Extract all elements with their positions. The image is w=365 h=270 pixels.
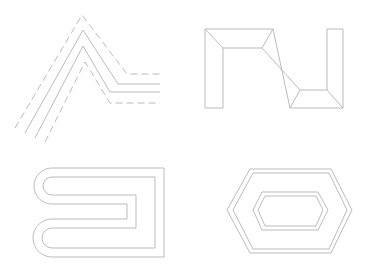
diagram-canvas (0, 0, 365, 270)
serpentine-outer-outline (33, 168, 164, 257)
band-outline (205, 29, 343, 108)
nested-hexagons-panel (227, 169, 352, 253)
inner-solid-line (35, 46, 160, 138)
bevel-line (327, 90, 343, 108)
bevel-line (205, 29, 223, 48)
serpentine-panel (33, 168, 164, 257)
bevel-line (262, 29, 273, 48)
beveled-step-panel (205, 29, 343, 108)
hexagon-inner-2 (258, 196, 323, 226)
bevel-line (290, 90, 300, 108)
hexagon-outer-2 (233, 173, 347, 249)
outer-dashed-offset (15, 15, 160, 128)
serpentine-inner-outline (42, 177, 155, 248)
chevron-offsets-panel (15, 15, 160, 142)
